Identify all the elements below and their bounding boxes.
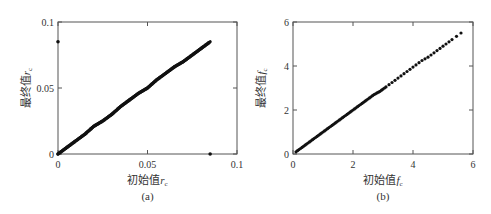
figure-caption: (a) <box>141 190 154 203</box>
figure-caption: (b) <box>377 190 390 203</box>
y-tick-label: 6 <box>284 17 289 28</box>
y-tick-label: 0.05 <box>37 83 55 94</box>
scatter-plot-b: 02460246初始值fc最终值fc(b) <box>235 0 491 214</box>
y-axis-label: 最终值rc <box>19 68 34 108</box>
y-tick-label: 0 <box>284 149 289 160</box>
x-tick-label: 6 <box>471 159 476 170</box>
scatter-plot-a: 00.050.100.050.1初始值rc最终值rc(a) <box>0 0 245 214</box>
data-points <box>294 31 462 153</box>
y-axis-label: 最终值fc <box>254 68 269 107</box>
y-tick-label: 4 <box>284 61 289 72</box>
x-axis-label: 初始值rc <box>127 173 167 188</box>
chart-panel-a: 00.050.100.050.1初始值rc最终值rc(a) <box>0 0 245 214</box>
y-tick-label: 2 <box>284 105 289 116</box>
data-points <box>56 40 212 156</box>
y-tick-label: 0 <box>49 149 54 160</box>
chart-panel-b: 02460246初始值fc最终值fc(b) <box>235 0 480 214</box>
x-tick-label: 0.05 <box>139 159 157 170</box>
x-axis-label: 初始值fc <box>363 173 402 188</box>
x-tick-label: 4 <box>411 159 416 170</box>
x-tick-label: 0 <box>291 159 296 170</box>
x-tick-label: 2 <box>351 159 356 170</box>
y-tick-label: 0.1 <box>42 17 55 28</box>
x-tick-label: 0 <box>56 159 61 170</box>
